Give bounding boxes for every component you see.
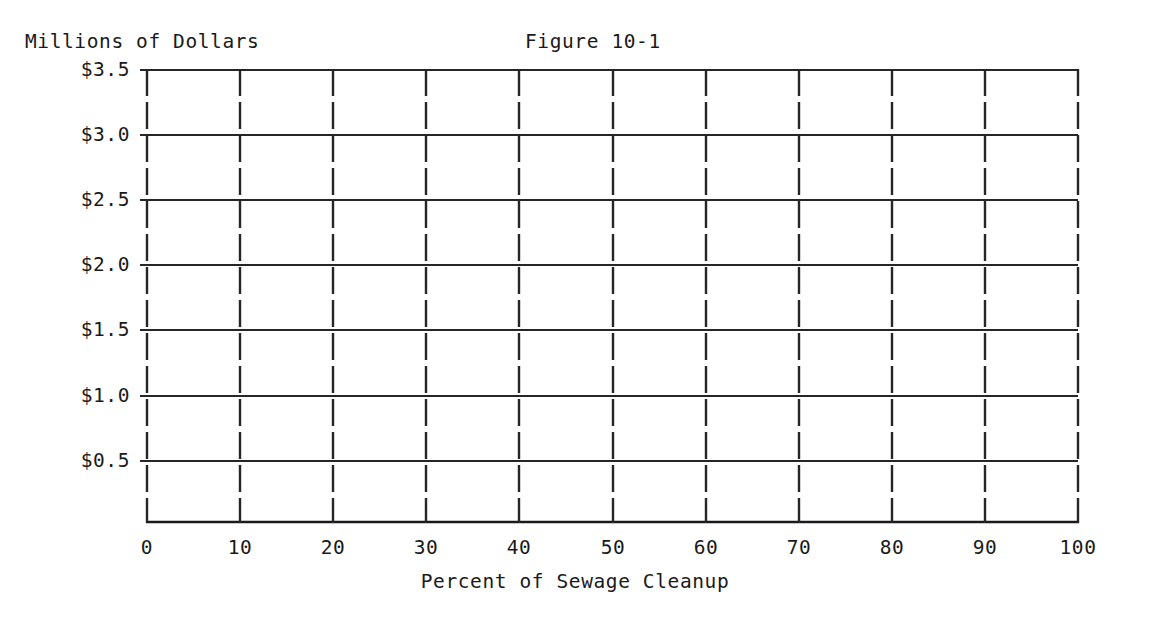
vertical-gridlines [147,69,1078,523]
y-tick-label-1-5: $1.5 [38,320,130,340]
x-tick-label-50: 50 [568,537,658,559]
x-tick-label-90: 90 [940,537,1030,559]
figure-container: Millions of Dollars Figure 10-1 [0,0,1150,632]
x-tick-label-100: 100 [1033,537,1123,559]
y-tick-label-1-0: $1.0 [38,386,130,406]
y-tick-label-3-5: $3.5 [38,60,130,80]
horizontal-gridlines [140,70,1078,461]
y-tick-label-3-0: $3.0 [38,125,130,145]
x-tick-label-60: 60 [661,537,751,559]
y-tick-label-0-5: $0.5 [38,451,130,471]
x-tick-label-10: 10 [195,537,285,559]
y-tick-label-2-5: $2.5 [38,190,130,210]
x-axis-title: Percent of Sewage Cleanup [0,570,1150,593]
x-tick-label-40: 40 [474,537,564,559]
x-tick-label-20: 20 [288,537,378,559]
y-tick-label-2-0: $2.0 [38,255,130,275]
x-tick-label-0: 0 [102,537,192,559]
x-tick-label-30: 30 [381,537,471,559]
x-tick-label-70: 70 [754,537,844,559]
x-tick-label-80: 80 [847,537,937,559]
